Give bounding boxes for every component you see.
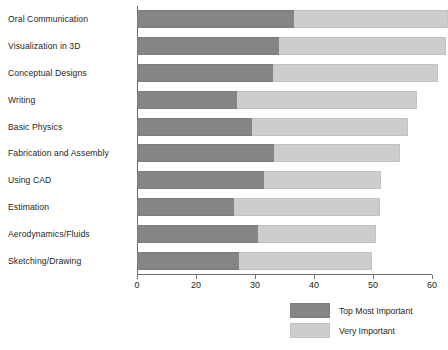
stacked-bar bbox=[137, 37, 446, 55]
x-axis-tick-label: 60 bbox=[427, 280, 437, 291]
bar-segment-top-most-important bbox=[137, 10, 294, 28]
bar-row: Oral Communication bbox=[0, 6, 443, 33]
x-axis-tick-label: 40 bbox=[309, 280, 319, 291]
category-label: Conceptual Designs bbox=[8, 68, 87, 78]
bar-segment-top-most-important bbox=[137, 225, 258, 243]
category-label: Sketching/Drawing bbox=[8, 256, 81, 266]
x-axis-tick bbox=[314, 275, 315, 279]
bar-segment-top-most-important bbox=[137, 144, 274, 162]
legend-item-top-most-important: Top Most Important bbox=[290, 303, 440, 318]
bar-row: Conceptual Designs bbox=[0, 60, 443, 87]
bar-segment-very-important bbox=[234, 198, 380, 216]
category-label: Fabrication and Assembly bbox=[8, 148, 109, 158]
x-axis-tick bbox=[137, 275, 138, 279]
bar-segment-very-important bbox=[294, 10, 448, 28]
stacked-bar bbox=[137, 171, 381, 189]
category-label: Visualization in 3D bbox=[8, 41, 80, 51]
x-axis-tick-label: 20 bbox=[191, 280, 201, 291]
x-axis-tick-label: 30 bbox=[250, 280, 260, 291]
category-label: Oral Communication bbox=[8, 14, 88, 24]
bar-segment-very-important bbox=[273, 64, 438, 82]
bar-segment-very-important bbox=[279, 37, 447, 55]
x-axis-tick bbox=[373, 275, 374, 279]
category-label: Aerodynamics/Fluids bbox=[8, 229, 90, 239]
stacked-bar bbox=[137, 225, 376, 243]
x-axis-line bbox=[137, 274, 432, 275]
bar-segment-top-most-important bbox=[137, 91, 237, 109]
x-axis-tick bbox=[432, 275, 433, 279]
category-label: Using CAD bbox=[8, 175, 51, 185]
bar-segment-top-most-important bbox=[137, 37, 279, 55]
chart-legend: Top Most Important Very Important bbox=[290, 303, 440, 343]
bar-segment-very-important bbox=[239, 252, 372, 270]
bar-segment-top-most-important bbox=[137, 252, 239, 270]
stacked-bar bbox=[137, 198, 380, 216]
legend-swatch-icon-top-most-important bbox=[290, 303, 330, 318]
bar-segment-very-important bbox=[258, 225, 376, 243]
bar-row: Estimation bbox=[0, 194, 443, 221]
bar-row: Writing bbox=[0, 86, 443, 113]
bar-segment-very-important bbox=[237, 91, 417, 109]
x-axis-tick-label: 0 bbox=[134, 280, 139, 291]
bar-row: Aerodynamics/Fluids bbox=[0, 220, 443, 247]
stacked-bar bbox=[137, 144, 400, 162]
bar-segment-top-most-important bbox=[137, 171, 264, 189]
legend-label-top-most-important: Top Most Important bbox=[339, 306, 413, 316]
bar-segment-very-important bbox=[264, 171, 381, 189]
x-axis-tick bbox=[255, 275, 256, 279]
legend-swatch-icon-very-important bbox=[290, 323, 330, 338]
bar-row: Fabrication and Assembly bbox=[0, 140, 443, 167]
category-label: Basic Physics bbox=[8, 122, 62, 132]
bar-segment-very-important bbox=[252, 118, 408, 136]
stacked-bar bbox=[137, 64, 438, 82]
stacked-bar bbox=[137, 10, 448, 28]
bar-row: Visualization in 3D bbox=[0, 33, 443, 60]
bar-row: Basic Physics bbox=[0, 113, 443, 140]
bar-segment-top-most-important bbox=[137, 64, 273, 82]
bar-row: Sketching/Drawing bbox=[0, 247, 443, 274]
bar-segment-top-most-important bbox=[137, 198, 234, 216]
bar-row: Using CAD bbox=[0, 167, 443, 194]
category-label: Writing bbox=[8, 95, 35, 105]
bar-segment-top-most-important bbox=[137, 118, 252, 136]
legend-item-very-important: Very Important bbox=[290, 323, 440, 338]
bar-segment-very-important bbox=[274, 144, 400, 162]
bar-rows: Oral CommunicationVisualization in 3DCon… bbox=[0, 6, 443, 274]
stacked-bar bbox=[137, 252, 372, 270]
x-axis-tick bbox=[196, 275, 197, 279]
legend-label-very-important: Very Important bbox=[339, 326, 395, 336]
stacked-bar bbox=[137, 118, 408, 136]
stacked-bar bbox=[137, 91, 417, 109]
x-axis-tick-label: 50 bbox=[368, 280, 378, 291]
category-label: Estimation bbox=[8, 202, 49, 212]
